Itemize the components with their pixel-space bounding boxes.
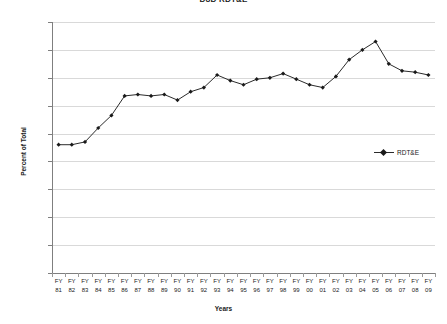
x-axis-tick-mark [409,273,410,277]
x-axis-tick-mark [263,273,264,277]
y-axis-line [52,22,53,274]
x-axis-tick-mark [92,273,93,277]
gridline [52,161,435,162]
x-axis-tick-mark [356,273,357,277]
x-axis-tick-mark [144,273,145,277]
y-axis-tick-mark [48,50,52,51]
x-axis-tick-mark [105,273,106,277]
y-axis-tick-mark [48,245,52,246]
y-axis-tick-mark [48,78,52,79]
x-axis-tick-mark [65,273,66,277]
y-axis-label: Percent of Total [20,112,27,192]
x-axis-tick-mark [131,273,132,277]
chart-legend: RDT&E [374,149,419,156]
y-axis-tick-mark [48,22,52,23]
y-axis-tick-mark [48,106,52,107]
legend-marker-icon [374,149,394,156]
gridline [52,22,435,23]
legend-label-rdte: RDT&E [397,149,419,156]
x-axis-tick-mark [118,273,119,277]
x-axis-line [52,273,436,274]
x-axis-tick-mark [237,273,238,277]
x-axis-tick-mark [290,273,291,277]
x-axis-tick-mark [197,273,198,277]
y-axis-tick-mark [48,134,52,135]
x-axis-tick-mark [78,273,79,277]
gridline [52,78,435,79]
x-axis-label: Years [0,305,447,312]
gridline [52,189,435,190]
x-axis-tick-mark [277,273,278,277]
chart-container: DoD RDT&E Percent of Total Years RDT&E 0… [0,0,447,324]
x-axis-tick-label: FY09 [419,277,437,294]
x-axis-tick-mark [395,273,396,277]
x-axis-tick-mark [329,273,330,277]
gridline [52,245,435,246]
plot-area [52,22,435,273]
x-axis-tick-mark [52,273,53,277]
x-axis-tick-mark [224,273,225,277]
y-axis-tick-mark [48,189,52,190]
gridline [52,50,435,51]
x-axis-tick-mark [343,273,344,277]
y-axis-tick-mark [48,161,52,162]
x-axis-tick-mark [369,273,370,277]
x-axis-tick-mark [422,273,423,277]
x-axis-tick-mark [435,273,436,277]
gridline [52,134,435,135]
gridline [52,217,435,218]
x-axis-tick-mark [184,273,185,277]
gridline [52,106,435,107]
x-axis-tick-mark [158,273,159,277]
x-axis-tick-mark [171,273,172,277]
x-axis-tick-mark [316,273,317,277]
x-axis-tick-mark [210,273,211,277]
chart-title: DoD RDT&E [0,0,447,4]
y-axis-tick-mark [48,217,52,218]
x-axis-tick-mark [382,273,383,277]
x-axis-tick-mark [250,273,251,277]
x-axis-tick-mark [303,273,304,277]
